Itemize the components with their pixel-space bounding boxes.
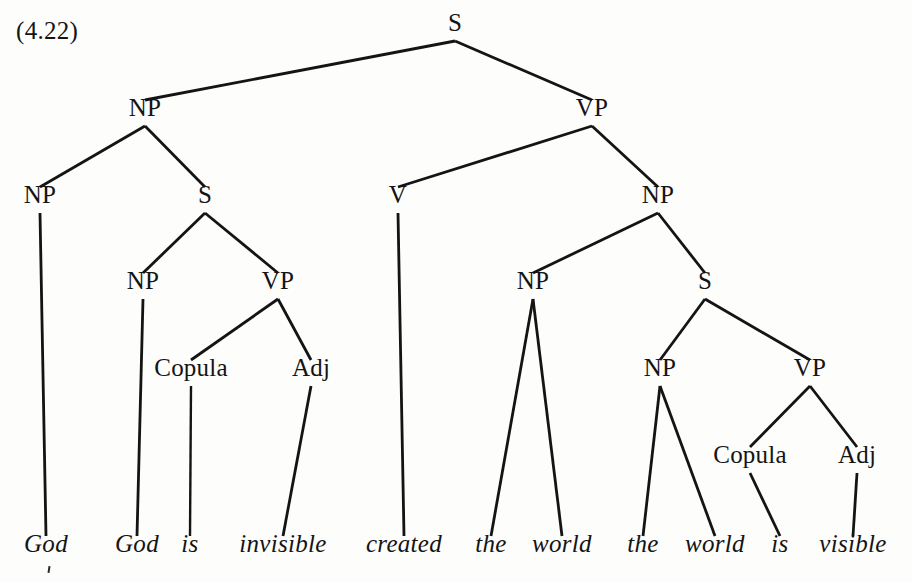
tree-edge <box>145 41 455 100</box>
tree-edge <box>283 386 311 536</box>
tree-leaf-word: world <box>532 531 592 556</box>
tree-leaf-word: is <box>181 531 198 556</box>
tree-node-copula: Copula <box>713 442 786 467</box>
tree-leaf-word: world <box>685 531 745 556</box>
tree-edge <box>143 213 205 273</box>
tree-node-np: NP <box>127 268 159 293</box>
tree-edge <box>660 299 705 360</box>
tree-node-np: NP <box>644 355 676 380</box>
tree-node-np: NP <box>24 182 56 207</box>
tree-node-vp: VP <box>794 355 826 380</box>
tree-edge <box>643 386 660 536</box>
tree-edge <box>191 299 278 360</box>
tree-edge <box>491 299 533 536</box>
tree-edge <box>205 213 278 273</box>
tree-node-adj: Adj <box>292 355 330 380</box>
tree-edge <box>810 386 857 447</box>
tree-edge <box>533 213 658 273</box>
tree-leaf-word: God <box>115 531 159 556</box>
tree-node-np: NP <box>517 268 549 293</box>
tree-edge <box>853 473 857 536</box>
tree-node-np: NP <box>129 95 161 120</box>
tree-edge <box>278 299 311 360</box>
tree-leaf-word: the <box>475 531 506 556</box>
tree-edge <box>398 213 404 536</box>
tree-leaf-word: is <box>771 531 788 556</box>
tree-edge <box>750 473 780 536</box>
tree-edge <box>455 41 592 100</box>
tree-leaf-word: invisible <box>239 531 326 556</box>
tree-node-s: S <box>198 182 212 207</box>
tree-edge <box>660 386 715 536</box>
tree-edge <box>145 126 205 187</box>
tree-edge <box>750 386 810 447</box>
tree-node-adj: Adj <box>838 442 876 467</box>
tree-node-v: V <box>389 182 407 207</box>
tree-node-vp: VP <box>262 268 294 293</box>
tree-leaf-word: visible <box>819 531 886 556</box>
tree-edge <box>533 299 562 536</box>
tree-edge <box>398 126 592 187</box>
tree-edge <box>137 299 143 536</box>
example-number-label: (4.22) <box>16 17 78 45</box>
tree-node-s: S <box>698 268 712 293</box>
tree-edge <box>658 213 705 273</box>
tree-node-vp: VP <box>576 95 608 120</box>
tree-leaf-word: God <box>24 531 68 556</box>
tree-leaf-word: created <box>366 531 442 556</box>
tree-edge <box>190 386 191 536</box>
tree-edge <box>592 126 658 187</box>
tree-edge <box>705 299 810 360</box>
tree-edge <box>40 213 46 536</box>
tree-edge <box>40 126 145 187</box>
tree-node-np: NP <box>642 182 674 207</box>
tree-node-copula: Copula <box>154 355 227 380</box>
figure-canvas: (4.22) SNPVPNPSVNPNPVPNPSCopulaAdjNPVPCo… <box>0 0 912 582</box>
tree-node-s: S <box>448 10 462 35</box>
tree-leaf-word: the <box>627 531 658 556</box>
